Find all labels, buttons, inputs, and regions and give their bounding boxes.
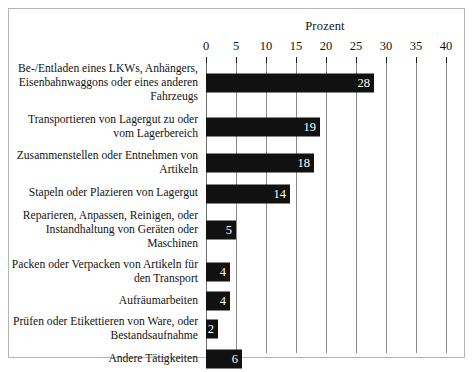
category-label: Andere Tätigkeiten [8, 352, 198, 366]
bar-container: 19 [206, 118, 320, 137]
chart-figure: Prozent 0510152025303540 Be-/Entladen ei… [8, 8, 465, 358]
bar-row: Transportieren von Lagergut zu oder vom … [9, 109, 466, 145]
bar: 5 [206, 221, 236, 240]
bar-value-label: 5 [226, 224, 232, 237]
bar-value-label: 2 [208, 323, 214, 336]
category-label: Packen oder Verpacken von Artikeln für d… [8, 258, 198, 286]
bar-row: Aufräumarbeiten4 [9, 290, 466, 312]
category-label: Prüfen oder Etikettieren von Ware, oder … [8, 315, 198, 343]
bar: 19 [206, 118, 320, 137]
bar-value-label: 18 [298, 157, 311, 170]
x-tick-label-20: 20 [320, 39, 333, 54]
x-tick-label-30: 30 [380, 39, 393, 54]
bar-row: Stapeln oder Plazieren von Lagergut14 [9, 181, 466, 206]
category-label: Aufräumarbeiten [8, 294, 198, 308]
x-tick-label-25: 25 [350, 39, 363, 54]
bar-container: 6 [206, 350, 242, 369]
plot-area: Be-/Entladen eines LKWs, Anhängers, Eise… [9, 57, 466, 357]
bar-container: 14 [206, 184, 290, 203]
x-axis-tick-labels: 0510152025303540 [9, 39, 466, 55]
x-tick-label-40: 40 [440, 39, 453, 54]
bar-container: 4 [206, 263, 230, 282]
bar-row: Reparieren, Anpassen, Reinigen, oder Ins… [9, 206, 466, 254]
x-tick-label-5: 5 [233, 39, 239, 54]
category-label: Reparieren, Anpassen, Reinigen, oder Ins… [8, 209, 198, 252]
bar: 14 [206, 184, 290, 203]
bar-value-label: 14 [274, 187, 287, 200]
bar-rows: Be-/Entladen eines LKWs, Anhängers, Eise… [9, 57, 466, 372]
bar-value-label: 4 [220, 266, 226, 279]
bar-row: Andere Tätigkeiten6 [9, 346, 466, 372]
bar-row: Packen oder Verpacken von Artikeln für d… [9, 254, 466, 290]
bar: 6 [206, 350, 242, 369]
category-label: Stapeln oder Plazieren von Lagergut [8, 186, 198, 200]
category-label: Transportieren von Lagergut zu oder vom … [8, 113, 198, 141]
bar-value-label: 28 [358, 77, 371, 90]
axis-title: Prozent [205, 19, 445, 34]
bar-row: Be-/Entladen eines LKWs, Anhängers, Eise… [9, 57, 466, 109]
bar: 4 [206, 292, 230, 311]
bar-row: Prüfen oder Etikettieren von Ware, oder … [9, 312, 466, 346]
bar-container: 2 [206, 320, 218, 339]
x-tick-label-0: 0 [203, 39, 209, 54]
bar-container: 28 [206, 74, 374, 93]
x-tick-label-10: 10 [260, 39, 273, 54]
x-tick-label-35: 35 [410, 39, 423, 54]
bar: 2 [206, 320, 218, 339]
bar-row: Zusammenstellen oder Entnehmen von Artik… [9, 145, 466, 181]
category-label: Be-/Entladen eines LKWs, Anhängers, Eise… [8, 62, 198, 105]
bar-value-label: 19 [304, 121, 317, 134]
bar-value-label: 4 [220, 295, 226, 308]
bar: 28 [206, 74, 374, 93]
bar-container: 18 [206, 154, 314, 173]
x-tick-label-15: 15 [290, 39, 303, 54]
category-label: Zusammenstellen oder Entnehmen von Artik… [8, 149, 198, 177]
bar-container: 4 [206, 292, 230, 311]
bar-value-label: 6 [232, 353, 238, 366]
bar: 4 [206, 263, 230, 282]
bar: 18 [206, 154, 314, 173]
bar-container: 5 [206, 221, 236, 240]
